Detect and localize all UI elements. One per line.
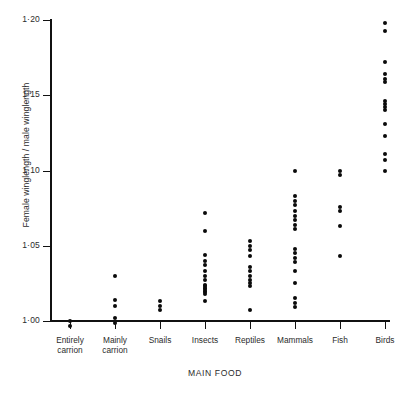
data-point	[248, 274, 252, 278]
data-point	[203, 263, 207, 267]
data-point	[293, 296, 297, 300]
data-point	[248, 254, 252, 258]
data-point	[293, 203, 297, 207]
data-point	[383, 80, 387, 84]
data-point	[248, 248, 252, 252]
data-point	[338, 209, 342, 213]
data-point	[383, 122, 387, 126]
data-point	[383, 108, 387, 112]
data-point	[338, 169, 342, 173]
data-point	[203, 211, 207, 215]
data-point	[158, 299, 162, 303]
x-tick-mark	[385, 322, 386, 329]
data-point	[338, 254, 342, 258]
data-point	[158, 308, 162, 312]
data-point	[203, 229, 207, 233]
y-tick-mark	[43, 321, 50, 322]
data-point	[293, 281, 297, 285]
data-point	[293, 251, 297, 255]
data-point	[203, 292, 207, 296]
data-point	[293, 169, 297, 173]
data-point	[338, 205, 342, 209]
data-point	[248, 284, 252, 288]
data-point	[383, 169, 387, 173]
data-point	[338, 173, 342, 177]
data-point	[203, 253, 207, 257]
data-point	[293, 199, 297, 203]
x-tick-mark	[295, 322, 296, 329]
data-point	[113, 304, 117, 308]
y-axis-line	[50, 19, 52, 322]
x-tick-mark	[205, 322, 206, 329]
data-point	[248, 265, 252, 269]
data-point	[203, 278, 207, 282]
x-tick-mark	[70, 322, 71, 329]
data-point	[383, 21, 387, 25]
data-point	[293, 305, 297, 309]
data-point	[113, 298, 117, 302]
data-point	[293, 269, 297, 273]
data-point	[203, 269, 207, 273]
x-tick-mark	[250, 322, 251, 329]
data-point	[158, 304, 162, 308]
data-point	[248, 308, 252, 312]
data-point	[203, 274, 207, 278]
y-tick-label: 1·20	[0, 14, 40, 24]
data-point	[293, 301, 297, 305]
y-tick-mark	[43, 246, 50, 247]
data-point	[383, 152, 387, 156]
data-point	[248, 239, 252, 243]
x-tick-label-birds: Birds	[355, 336, 408, 346]
data-point	[293, 209, 297, 213]
data-point	[293, 194, 297, 198]
data-point	[248, 244, 252, 248]
data-point	[293, 223, 297, 227]
data-point	[203, 259, 207, 263]
dot-plot-figure: 1·001·051·101·151·20 EntirelycarrionMain…	[0, 0, 408, 402]
x-tick-mark	[340, 322, 341, 329]
x-axis-line	[50, 320, 390, 322]
data-point	[293, 247, 297, 251]
data-point	[293, 214, 297, 218]
data-point	[383, 72, 387, 76]
data-point	[203, 299, 207, 303]
x-tick-mark	[160, 322, 161, 329]
data-point	[293, 218, 297, 222]
x-axis-title: MAIN FOOD	[150, 368, 280, 378]
data-point	[383, 134, 387, 138]
data-point	[383, 29, 387, 33]
data-point	[338, 224, 342, 228]
data-point	[113, 274, 117, 278]
y-tick-mark	[43, 171, 50, 172]
data-point	[293, 260, 297, 264]
data-point	[383, 158, 387, 162]
y-tick-label: 1·00	[0, 315, 40, 325]
data-point	[248, 269, 252, 273]
data-point	[293, 227, 297, 231]
data-point	[383, 60, 387, 64]
data-point	[293, 256, 297, 260]
y-axis-title: Female winglength / male winglength	[21, 48, 31, 263]
x-tick-mark	[115, 322, 116, 329]
y-tick-mark	[43, 95, 50, 96]
y-tick-mark	[43, 20, 50, 21]
